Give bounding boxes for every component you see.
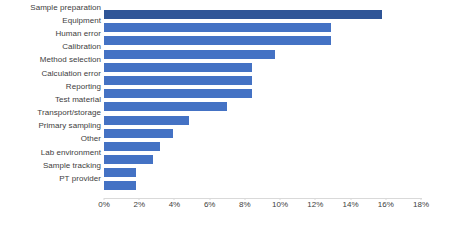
category-label-row: PT provider xyxy=(0,171,101,184)
category-label-row: Human error xyxy=(0,26,101,39)
category-label: Calibration xyxy=(62,42,101,51)
category-label: Test material xyxy=(55,94,101,103)
bar[interactable] xyxy=(104,76,252,85)
x-tick-label: 16% xyxy=(378,200,394,210)
x-axis-line xyxy=(104,198,422,199)
bar-row xyxy=(104,61,421,74)
category-label: Sample preparation xyxy=(30,2,101,11)
category-label: Sample tracking xyxy=(43,160,101,169)
bar-row xyxy=(104,140,421,153)
bar[interactable] xyxy=(104,181,136,190)
bar-row xyxy=(104,166,421,179)
bar[interactable] xyxy=(104,50,275,59)
x-tick-label: 6% xyxy=(204,200,216,210)
category-label-row: Test material xyxy=(0,92,101,105)
category-label-row: Method selection xyxy=(0,53,101,66)
bar[interactable] xyxy=(104,116,189,125)
x-tick-label: 0% xyxy=(98,200,110,210)
bar-row xyxy=(104,21,421,34)
category-label-row: Transport/storage xyxy=(0,106,101,119)
category-label: Other xyxy=(81,134,101,143)
category-label-row: Reporting xyxy=(0,79,101,92)
x-tick-label: 2% xyxy=(133,200,145,210)
category-label: Calculation error xyxy=(41,68,101,77)
bar[interactable] xyxy=(104,63,252,72)
x-axis-ticks: 0%2%4%6%8%10%12%14%16%18% xyxy=(104,200,421,214)
bar[interactable] xyxy=(104,36,331,45)
bar-row xyxy=(104,153,421,166)
bar[interactable] xyxy=(104,89,252,98)
category-label: Human error xyxy=(56,28,101,37)
x-tick-label: 14% xyxy=(343,200,359,210)
x-tick-label: 8% xyxy=(239,200,251,210)
bar[interactable] xyxy=(104,129,173,138)
category-label-row: Calibration xyxy=(0,40,101,53)
category-label: Lab environment xyxy=(41,147,101,156)
category-label-row: Lab environment xyxy=(0,145,101,158)
bar[interactable] xyxy=(104,155,153,164)
category-label-row: Other xyxy=(0,132,101,145)
category-label-row: Sample tracking xyxy=(0,158,101,171)
x-tick-label: 10% xyxy=(272,200,288,210)
category-label-row: Primary sampling xyxy=(0,119,101,132)
bar-chart: Sample preparationEquipmentHuman errorCa… xyxy=(0,0,454,231)
category-label: PT provider xyxy=(59,174,101,183)
bar[interactable] xyxy=(104,10,382,19)
bar-row xyxy=(104,34,421,47)
category-label: Primary sampling xyxy=(38,121,101,130)
bar-row xyxy=(104,100,421,113)
bar-row xyxy=(104,114,421,127)
bar-row xyxy=(104,87,421,100)
bar[interactable] xyxy=(104,142,160,151)
x-tick-label: 18% xyxy=(413,200,429,210)
bar[interactable] xyxy=(104,168,136,177)
bar-row xyxy=(104,179,421,192)
category-label: Equipment xyxy=(62,15,101,24)
bar-row xyxy=(104,127,421,140)
bar[interactable] xyxy=(104,23,331,32)
category-label-row: Sample preparation xyxy=(0,0,101,13)
bar-row xyxy=(104,8,421,21)
x-tick-label: 12% xyxy=(307,200,323,210)
category-label-row: Equipment xyxy=(0,13,101,26)
category-axis: Sample preparationEquipmentHuman errorCa… xyxy=(0,0,101,190)
bar-row xyxy=(104,48,421,61)
x-tick-label: 4% xyxy=(169,200,181,210)
category-label: Transport/storage xyxy=(37,108,101,117)
category-label: Method selection xyxy=(40,55,101,64)
bar[interactable] xyxy=(104,102,227,111)
category-label-row: Calculation error xyxy=(0,66,101,79)
category-label: Reporting xyxy=(66,81,101,90)
plot-area xyxy=(104,8,421,198)
bar-row xyxy=(104,74,421,87)
